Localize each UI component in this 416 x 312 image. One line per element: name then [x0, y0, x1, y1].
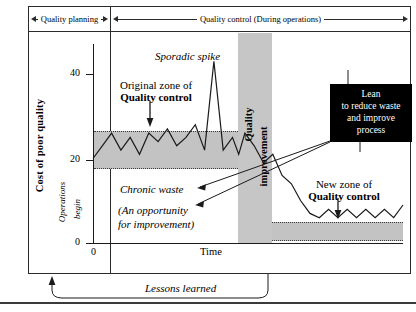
annotation-chronic-waste: Chronic waste — [120, 183, 183, 195]
arrow-left-icon — [31, 16, 36, 22]
figure-root: Quality planning Quality control (During… — [0, 0, 416, 312]
annotation-original-zone-line2: Quality control — [102, 91, 210, 103]
figure-bottom-rule — [0, 302, 416, 304]
annotation-original-zone: Original zone of Quality control — [102, 79, 210, 104]
lean-callout-box: Lean to reduce waste and improve process — [330, 84, 412, 142]
arrow-right-icon — [403, 16, 408, 22]
chart-overlay — [0, 0, 416, 312]
callout-line3: and improve — [341, 113, 400, 125]
annotation-opportunity-line2: for improvement) — [118, 218, 194, 232]
annotation-new-zone-line2: Quality control — [292, 190, 396, 202]
annotation-lessons-learned: Lessons learned — [145, 282, 216, 294]
annotation-opportunity-line1: (An opportunity — [118, 204, 194, 218]
annotation-original-zone-line1: Original zone of — [120, 79, 192, 91]
callout-line1: Lean — [341, 89, 400, 101]
phase-label-control: Quality control (During operations) — [197, 15, 324, 24]
original-zone-pointer-arrow — [147, 101, 154, 127]
callout-line2: to reduce waste — [341, 101, 400, 113]
annotation-sporadic-spike: Sporadic spike — [155, 50, 220, 62]
arrow-left-icon — [113, 16, 118, 22]
phase-label-planning: Quality planning — [38, 15, 101, 24]
callout-line4: process — [341, 125, 400, 137]
annotation-new-zone-line1: New zone of — [316, 178, 372, 190]
annotation-opportunity: (An opportunity for improvement) — [118, 204, 194, 232]
annotation-new-zone: New zone of Quality control — [292, 178, 396, 203]
arrow-right-icon — [103, 16, 108, 22]
